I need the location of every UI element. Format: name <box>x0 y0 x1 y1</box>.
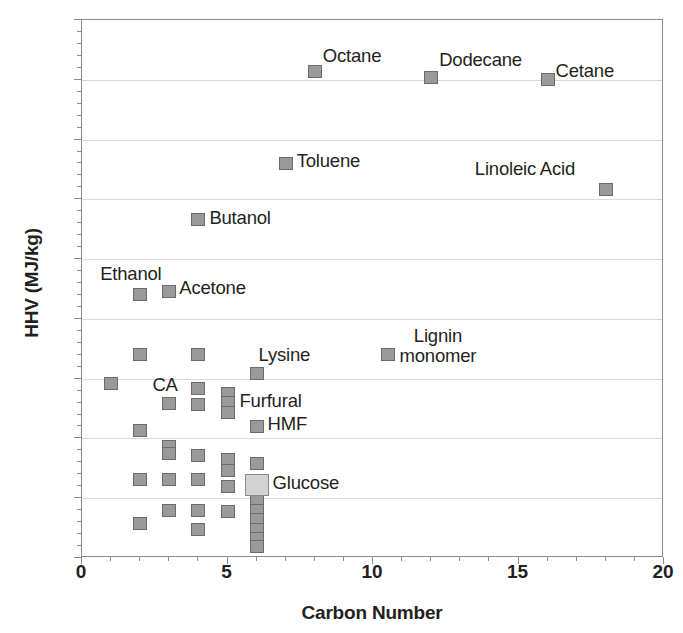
data-point-marker <box>191 398 205 411</box>
y-axis-tick-mark <box>74 318 81 319</box>
y-axis-tick-mark <box>74 139 81 140</box>
data-point-marker <box>191 348 205 361</box>
x-axis-tick-mark <box>634 557 635 561</box>
gridline <box>82 259 662 260</box>
data-point-marker <box>162 473 176 486</box>
y-axis-tick-mark <box>74 557 81 558</box>
point-label-lignin-monomer: Ligninmonomer <box>400 326 477 366</box>
point-label-hmf: HMF <box>268 414 307 434</box>
y-axis-tick-mark <box>74 79 81 80</box>
point-label-ethanol: Ethanol <box>100 264 161 284</box>
x-axis-tick-mark <box>459 557 460 561</box>
data-point-marker <box>191 449 205 462</box>
point-label-butanol: Butanol <box>209 208 270 228</box>
x-axis-tick-mark <box>139 557 140 561</box>
data-point-marker <box>162 504 176 517</box>
data-point-marker <box>381 348 395 361</box>
y-axis-tick-mark <box>74 19 81 20</box>
x-axis-tick-mark <box>314 557 315 561</box>
y-axis-tick-mark <box>74 198 81 199</box>
x-axis-tick-mark <box>256 557 257 561</box>
data-point-marker <box>308 65 322 78</box>
x-axis-tick-mark <box>488 557 489 561</box>
data-point-marker <box>250 367 264 380</box>
data-point-marker <box>133 424 147 437</box>
point-label-lysine: Lysine <box>259 345 311 365</box>
x-axis-tick-label: 0 <box>51 562 111 581</box>
point-label-toluene: Toluene <box>297 151 360 171</box>
point-label-acetone: Acetone <box>179 278 246 298</box>
gridline <box>82 319 662 320</box>
data-point-marker <box>104 377 118 390</box>
data-point-marker <box>133 348 147 361</box>
data-point-marker <box>221 505 235 518</box>
data-point-marker <box>133 517 147 530</box>
point-label-lignin-line1: Lignin <box>400 326 477 346</box>
data-point-marker <box>162 397 176 410</box>
plot-area <box>81 19 663 557</box>
x-axis-tick-label: 10 <box>342 562 402 581</box>
data-point-marker <box>541 73 555 86</box>
data-point-marker <box>599 183 613 196</box>
y-axis-tick-mark <box>74 378 81 379</box>
x-axis-tick-mark <box>81 557 82 564</box>
point-label-cetane: Cetane <box>556 61 614 81</box>
x-axis-tick-mark <box>663 557 664 564</box>
data-point-marker <box>221 406 235 419</box>
y-axis-tick-mark <box>74 437 81 438</box>
x-axis-title: Carbon Number <box>81 602 663 624</box>
data-point-marker <box>250 540 264 553</box>
x-axis-tick-mark <box>547 557 548 561</box>
data-point-marker <box>279 157 293 170</box>
data-point-marker <box>133 288 147 301</box>
x-axis-tick-mark <box>401 557 402 561</box>
point-label-glucose: Glucose <box>273 473 339 493</box>
x-axis-tick-mark <box>168 557 169 561</box>
gridline <box>82 438 662 439</box>
data-point-marker <box>245 474 269 496</box>
x-axis-tick-mark <box>285 557 286 561</box>
data-point-marker <box>221 464 235 477</box>
point-label-furfural: Furfural <box>240 391 302 411</box>
scatter-chart: HHV (MJ/kg) Carbon Number 10152025303540… <box>0 0 683 633</box>
data-point-marker <box>191 473 205 486</box>
gridline <box>82 140 662 141</box>
gridline <box>82 498 662 499</box>
x-axis-tick-mark <box>576 557 577 561</box>
y-axis-tick-mark <box>74 258 81 259</box>
point-label-ca: CA <box>152 375 177 395</box>
point-label-octane: Octane <box>323 46 381 66</box>
data-point-marker <box>424 71 438 84</box>
data-point-marker <box>221 480 235 493</box>
data-point-marker <box>250 457 264 470</box>
x-axis-tick-mark <box>372 557 373 564</box>
x-axis-tick-mark <box>430 557 431 561</box>
x-axis-tick-mark <box>605 557 606 561</box>
y-axis-title: HHV (MJ/kg) <box>21 168 43 398</box>
point-label-dodecane: Dodecane <box>439 50 522 70</box>
x-axis-tick-mark <box>343 557 344 561</box>
x-axis-tick-label: 20 <box>633 562 683 581</box>
data-point-marker <box>162 447 176 460</box>
data-point-marker <box>250 420 264 433</box>
x-axis-tick-mark <box>110 557 111 561</box>
x-axis-tick-mark <box>197 557 198 561</box>
x-axis-tick-mark <box>227 557 228 564</box>
gridline <box>82 199 662 200</box>
y-axis-tick-mark <box>74 497 81 498</box>
point-label-linoleic-acid: Linoleic Acid <box>475 159 575 179</box>
data-point-marker <box>191 382 205 395</box>
x-axis-tick-mark <box>518 557 519 564</box>
point-label-lignin-line2: monomer <box>400 346 477 366</box>
data-point-marker <box>191 213 205 226</box>
x-axis-tick-label: 5 <box>197 562 257 581</box>
data-point-marker <box>191 523 205 536</box>
x-axis-tick-label: 15 <box>488 562 548 581</box>
data-point-marker <box>162 285 176 298</box>
data-point-marker <box>133 473 147 486</box>
data-point-marker <box>191 504 205 517</box>
